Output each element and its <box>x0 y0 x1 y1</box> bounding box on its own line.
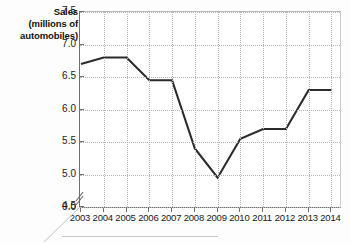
vgridline <box>331 12 332 207</box>
page-rule <box>62 236 218 237</box>
vgridline <box>240 12 241 207</box>
y-tick-mark <box>79 174 84 175</box>
vgridline <box>195 12 196 207</box>
hgridline <box>80 77 340 78</box>
hgridline <box>80 142 340 143</box>
vgridline <box>309 12 310 207</box>
hgridline <box>80 110 340 111</box>
x-tick-mark <box>148 208 149 212</box>
leader-line <box>44 205 84 243</box>
y-tick-label: 6.0 <box>36 103 76 114</box>
y-tick-mark <box>79 44 84 45</box>
y-tick-label: 6.5 <box>36 70 76 81</box>
y-tick-label: 7.5 <box>36 5 76 16</box>
y-axis-title-line-2: (millions of <box>0 18 78 30</box>
vgridline <box>172 12 173 207</box>
y-tick-label: 7.0 <box>36 38 76 49</box>
y-tick-label: 5.0 <box>36 168 76 179</box>
hgridline <box>80 12 340 13</box>
x-tick-mark <box>171 208 172 212</box>
x-tick-mark <box>126 208 127 212</box>
y-tick-mark <box>79 76 84 77</box>
vgridline <box>104 12 105 207</box>
y-tick-mark <box>79 109 84 110</box>
vgridline <box>149 12 150 207</box>
x-tick-mark <box>308 208 309 212</box>
y-tick-mark <box>79 141 84 142</box>
plot-area <box>79 11 341 208</box>
vgridline <box>127 12 128 207</box>
x-tick-mark <box>217 208 218 212</box>
x-tick-mark <box>330 208 331 212</box>
y-tick-label: 5.5 <box>36 135 76 146</box>
x-tick-mark <box>262 208 263 212</box>
vgridline <box>218 12 219 207</box>
vgridline <box>263 12 264 207</box>
vgridline <box>286 12 287 207</box>
hgridline <box>80 175 340 176</box>
x-tick-mark <box>285 208 286 212</box>
x-tick-mark <box>239 208 240 212</box>
x-tick-label: 2014 <box>313 212 347 223</box>
x-tick-mark <box>103 208 104 212</box>
x-tick-mark <box>194 208 195 212</box>
hgridline <box>80 207 340 208</box>
chart-screenshot: Sales (millions of automobiles) 7.57.06.… <box>0 0 351 243</box>
hgridline <box>80 45 340 46</box>
y-tick-mark <box>79 11 84 12</box>
